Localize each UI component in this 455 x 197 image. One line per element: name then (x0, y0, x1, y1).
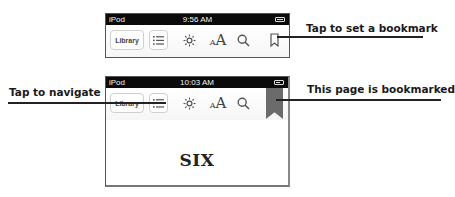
callout-line-bookmarked (276, 99, 441, 101)
callout-navigate: Tap to navigate (9, 86, 101, 98)
reader-toolbar: Library AA (106, 88, 288, 120)
font-size-button[interactable]: AA (206, 94, 230, 110)
status-bar: iPod 10:03 AM (106, 77, 288, 88)
search-icon (237, 97, 250, 110)
font-size-icon: AA (210, 93, 227, 112)
bookmark-ribbon-icon[interactable] (266, 88, 283, 119)
table-of-contents-button[interactable] (149, 30, 168, 50)
clock: 9:56 AM (106, 14, 289, 25)
font-size-button[interactable]: AA (206, 31, 230, 47)
clock: 10:03 AM (106, 77, 288, 88)
callout-set-bookmark: Tap to set a bookmark (306, 22, 438, 34)
search-button[interactable] (236, 33, 250, 47)
ibooks-screen-after: iPod 10:03 AM Library (105, 76, 290, 187)
status-bar: iPod 9:56 AM (106, 14, 289, 25)
callout-bookmarked: This page is bookmarked (307, 83, 455, 95)
callout-line-set-bookmark (277, 36, 423, 38)
font-size-icon: AA (210, 30, 227, 49)
reader-toolbar: Library AA (106, 25, 289, 57)
ibooks-screen-before: iPod 9:56 AM Library (105, 13, 290, 58)
book-page: SIX (106, 120, 288, 185)
brightness-button[interactable] (182, 33, 196, 47)
library-button[interactable]: Library (110, 30, 144, 50)
brightness-button[interactable] (182, 96, 196, 110)
list-icon (153, 36, 164, 45)
chapter-title: SIX (106, 150, 288, 170)
brightness-icon (183, 34, 196, 47)
brightness-icon (183, 97, 196, 110)
battery-charging-icon (274, 80, 284, 85)
search-icon (237, 34, 250, 47)
callout-line-navigate (8, 102, 166, 104)
search-button[interactable] (236, 96, 250, 110)
battery-icon (275, 17, 285, 22)
